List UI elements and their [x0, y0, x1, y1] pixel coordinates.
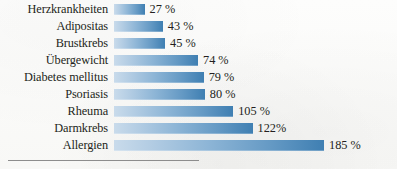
value-label: 105 % [238, 106, 270, 117]
value-bar [114, 123, 253, 134]
category-label: Brustkrebs [0, 38, 114, 49]
category-label: Psoriasis [0, 89, 114, 100]
value-bar [114, 38, 165, 49]
value-bar [114, 106, 233, 117]
bar-row: Herzkrankheiten 27 % [0, 4, 397, 15]
bar-track: 27 % [114, 4, 397, 15]
bar-track: 79 % [114, 72, 397, 83]
bar-track: 185 % [114, 140, 397, 151]
category-label: Adipositas [0, 21, 114, 32]
category-label: Rheuma [0, 106, 114, 117]
bar-track: 74 % [114, 55, 397, 66]
bar-row: Darmkrebs 122% [0, 123, 397, 134]
bar-row: Adipositas 43 % [0, 21, 397, 32]
value-label: 43 % [168, 21, 194, 32]
value-label: 27 % [150, 4, 176, 15]
value-bar [114, 140, 324, 151]
bar-row: Rheuma 105 % [0, 106, 397, 117]
bar-track: 43 % [114, 21, 397, 32]
value-label: 80 % [210, 89, 236, 100]
value-label: 74 % [203, 55, 229, 66]
value-label: 45 % [170, 38, 196, 49]
category-label: Übergewicht [0, 55, 114, 66]
bar-row: Diabetes mellitus 79 % [0, 72, 397, 83]
value-bar [114, 21, 163, 32]
value-bar [114, 4, 145, 15]
value-bar [114, 72, 204, 83]
bar-row: Allergien 185 % [0, 140, 397, 151]
value-bar [114, 89, 205, 100]
value-label: 122% [258, 123, 287, 134]
category-label: Darmkrebs [0, 123, 114, 134]
category-label: Diabetes mellitus [0, 72, 114, 83]
category-label: Allergien [0, 140, 114, 151]
bar-track: 105 % [114, 106, 397, 117]
bar-row: Psoriasis 80 % [0, 89, 397, 100]
bar-row: Übergewicht 74 % [0, 55, 397, 66]
value-label: 79 % [209, 72, 235, 83]
horizontal-bar-chart: Herzkrankheiten 27 % Adipositas 43 % Bru… [0, 0, 397, 169]
value-label: 185 % [329, 140, 361, 151]
value-bar [114, 55, 198, 66]
footer-divider-rule [8, 160, 199, 161]
category-label: Herzkrankheiten [0, 4, 114, 15]
bar-track: 80 % [114, 89, 397, 100]
bar-row: Brustkrebs 45 % [0, 38, 397, 49]
bar-track: 122% [114, 123, 397, 134]
bar-track: 45 % [114, 38, 397, 49]
